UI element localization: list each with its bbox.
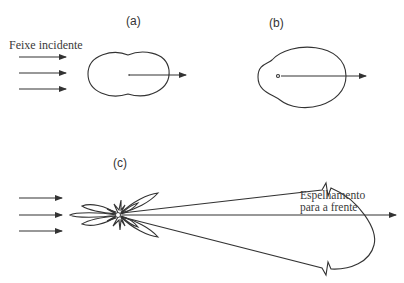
panel-b: (b) bbox=[258, 16, 366, 108]
panel-b-label: (b) bbox=[269, 16, 284, 30]
panel-a-label: (a) bbox=[126, 14, 141, 28]
incident-arrows-a bbox=[19, 57, 66, 89]
panel-c: (c) Espelhamento pa bbox=[19, 156, 396, 275]
rayleigh-pattern-shape bbox=[88, 52, 169, 96]
panel-c-label: (c) bbox=[113, 156, 127, 170]
forward-scatter-label-line2: para a frente bbox=[300, 201, 357, 214]
panel-a: (a) Feixe incidente bbox=[9, 14, 186, 96]
incident-beam-label: Feixe incidente bbox=[9, 38, 83, 52]
mie-small-pattern-shape bbox=[258, 47, 346, 107]
scattering-diagram: (a) Feixe incidente (b) (c) bbox=[0, 0, 404, 283]
incident-arrows-c bbox=[19, 198, 62, 231]
